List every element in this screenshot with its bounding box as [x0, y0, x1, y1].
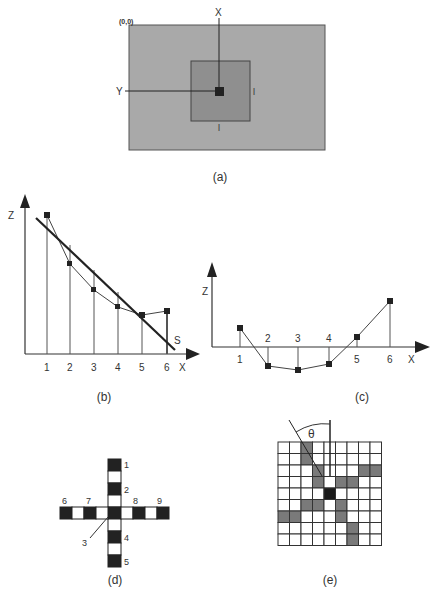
svg-text:5: 5 — [354, 354, 360, 365]
x-label: X — [408, 354, 415, 365]
grid-cell — [324, 523, 336, 535]
y-label: Y — [116, 86, 123, 97]
svg-text:2: 2 — [124, 485, 129, 495]
caption-b: (b) — [84, 390, 124, 404]
verticals — [240, 301, 390, 370]
grid-cell — [278, 534, 290, 546]
grid-cell — [301, 511, 313, 523]
grid-cell — [347, 500, 359, 512]
s-label: S — [174, 335, 181, 346]
x-label: X — [215, 7, 222, 18]
cross-cells — [60, 459, 169, 567]
z-label: Z — [202, 286, 208, 297]
svg-text:2: 2 — [265, 333, 271, 344]
grid-cell — [370, 454, 382, 466]
x-arrow-icon — [186, 348, 200, 360]
svg-text:3: 3 — [91, 362, 97, 373]
grid-cell — [336, 477, 348, 489]
z-arrow-icon — [20, 194, 30, 208]
svg-text:6: 6 — [62, 496, 67, 506]
grid-cell — [278, 500, 290, 512]
grid-cell — [370, 523, 382, 535]
svg-text:8: 8 — [133, 496, 138, 506]
grid-cell — [336, 523, 348, 535]
svg-text:4: 4 — [115, 362, 121, 373]
grid-cell — [336, 454, 348, 466]
svg-text:2: 2 — [67, 362, 73, 373]
residual-points — [237, 298, 393, 373]
grid-cell — [359, 523, 371, 535]
grid-cell — [347, 511, 359, 523]
grid-cell — [290, 465, 302, 477]
caption-d: (d) — [95, 573, 135, 587]
grid-cell — [290, 534, 302, 546]
grid-cell — [301, 454, 313, 466]
grid-cell — [278, 511, 290, 523]
grid-cell — [301, 523, 313, 535]
leader-line-3 — [90, 517, 108, 538]
grid-cell — [324, 511, 336, 523]
grid-cell — [336, 488, 348, 500]
grid-cell — [313, 500, 325, 512]
fit-line-s — [36, 218, 175, 350]
grid-cell — [336, 534, 348, 546]
grid-cell — [336, 500, 348, 512]
side-label-right: l — [253, 87, 255, 97]
grid-cell — [290, 500, 302, 512]
grid-cell — [347, 442, 359, 454]
svg-text:4: 4 — [326, 333, 332, 344]
grid-cell — [336, 511, 348, 523]
grid-cell — [278, 442, 290, 454]
panel-c: Z X 1 2 3 4 5 6 — [200, 250, 446, 390]
grid-cell — [301, 534, 313, 546]
grid-cell — [359, 442, 371, 454]
grid-cell — [290, 477, 302, 489]
grid-cell — [278, 454, 290, 466]
grid-cell — [324, 488, 336, 500]
grid-cell — [313, 465, 325, 477]
grid-cell — [301, 465, 313, 477]
grid-cell — [324, 500, 336, 512]
grid-cell — [290, 488, 302, 500]
x-arrow-icon — [415, 341, 430, 353]
grid-cell — [290, 454, 302, 466]
grid-cell — [370, 465, 382, 477]
origin-label: (0,0) — [119, 18, 133, 26]
profile-line — [47, 215, 167, 315]
grid-cell — [336, 465, 348, 477]
caption-c: (c) — [342, 390, 382, 404]
residual-line — [240, 301, 390, 370]
side-label-bottom: l — [218, 123, 220, 133]
grid-cell — [370, 500, 382, 512]
grid-cell — [359, 454, 371, 466]
grid-cell — [347, 534, 359, 546]
svg-text:1: 1 — [124, 460, 129, 470]
grid-cell — [347, 488, 359, 500]
grid-cell — [278, 523, 290, 535]
z-label: Z — [8, 210, 14, 221]
grid-cell — [359, 465, 371, 477]
grid-cell — [301, 488, 313, 500]
grid-cell — [313, 488, 325, 500]
grid-cell — [370, 477, 382, 489]
center-pixel — [215, 87, 224, 96]
grid-cell — [324, 477, 336, 489]
x-label: X — [179, 362, 186, 373]
grid-cell — [370, 488, 382, 500]
z-arrow-icon — [207, 262, 217, 277]
caption-a: (a) — [200, 170, 240, 184]
grid-cell — [347, 465, 359, 477]
grid-cell — [313, 534, 325, 546]
grid-cell — [290, 523, 302, 535]
caption-e: (e) — [310, 573, 350, 587]
grid-cell — [278, 477, 290, 489]
panel-b: S Z X 1 2 3 4 5 6 — [0, 190, 210, 390]
grid-cell — [301, 477, 313, 489]
svg-text:5: 5 — [139, 362, 145, 373]
svg-text:5: 5 — [124, 557, 129, 567]
grid-cell — [336, 442, 348, 454]
tick-labels: 1 2 3 4 5 6 — [237, 333, 393, 365]
grid-cell — [324, 534, 336, 546]
panel-e: θ — [260, 420, 410, 555]
grid-cell — [359, 500, 371, 512]
